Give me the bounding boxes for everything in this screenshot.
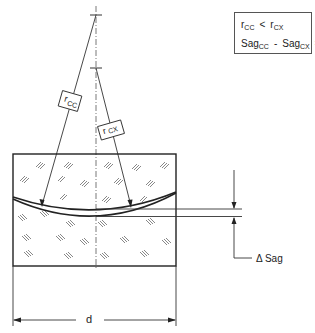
sag-cx-var: Sag xyxy=(282,38,300,49)
r-cc-radius-line xyxy=(42,15,96,205)
minus-operator: - xyxy=(274,38,277,49)
delta-sag-top-arrowhead xyxy=(232,202,237,209)
concave-surface-curve xyxy=(13,192,176,210)
formula-radius-inequality: rCC<rCX xyxy=(241,17,311,36)
r-cc-label: r CC xyxy=(58,91,82,112)
formula-box: rCC<rCX SagCC-SagCX=Δ Sag xyxy=(234,12,312,54)
sag-cc-sub: CC xyxy=(259,43,269,50)
sag-cc-var: Sag xyxy=(241,38,259,49)
r-cx-sub: CX xyxy=(274,24,284,31)
r-cx-label: r CX xyxy=(98,120,125,140)
less-than-operator: < xyxy=(259,19,265,30)
delta-sag-bottom-arrowhead xyxy=(232,217,237,224)
diameter-arrowhead-right xyxy=(168,318,176,323)
formula-sag-difference: SagCC-SagCX=Δ Sag xyxy=(241,36,311,55)
r-cc-sub: CC xyxy=(244,24,254,31)
diameter-label: d xyxy=(86,313,92,325)
sag-cx-sub: CX xyxy=(300,43,310,50)
delta-sag-label: Δ Sag xyxy=(256,253,283,264)
diameter-arrowhead-left xyxy=(13,318,21,323)
